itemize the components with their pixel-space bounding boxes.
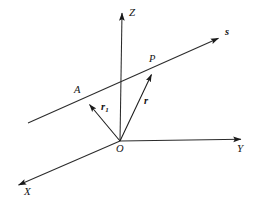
- axis-label-z: Z: [129, 7, 135, 18]
- point-label-p: P: [149, 54, 155, 65]
- vector-label-r1-subscript: 1: [105, 106, 109, 114]
- axis-label-y: Y: [237, 143, 243, 154]
- line-label-s: s: [225, 27, 229, 38]
- vector-r: [120, 75, 152, 142]
- line-s: [28, 38, 219, 123]
- point-label-a: A: [74, 85, 80, 96]
- diagram-canvas: [0, 0, 257, 205]
- axis-line-x: [19, 141, 121, 185]
- vector-label-r1: r1: [101, 102, 109, 114]
- axis-line-y: [120, 139, 241, 141]
- axis-line-z: [120, 13, 122, 141]
- axis-label-x: X: [24, 186, 31, 197]
- vector-diagram-figure: Z Y X s O A P r1 r: [0, 0, 257, 205]
- vector-label-r: r: [144, 96, 148, 107]
- point-label-o: O: [116, 144, 124, 155]
